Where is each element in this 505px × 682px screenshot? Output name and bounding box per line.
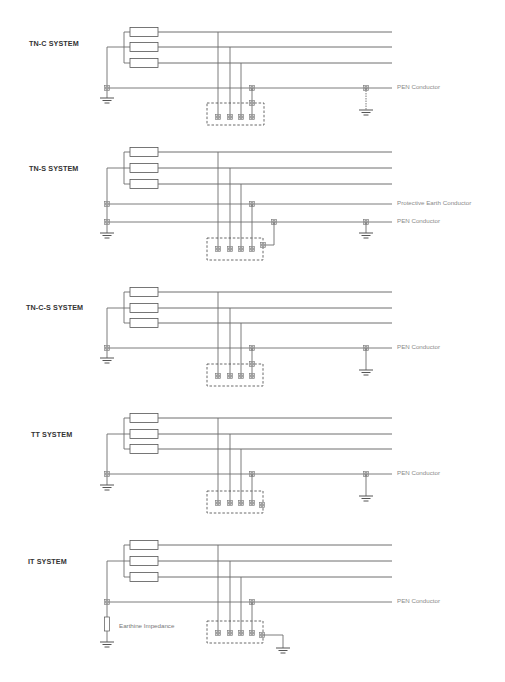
system-title: TN-C SYSTEM: [29, 39, 79, 48]
terminal-icon: [228, 247, 233, 252]
terminal-icon: [239, 631, 244, 636]
winding-coil: [130, 164, 158, 173]
terminal-icon: [250, 631, 255, 636]
terminal-icon: [250, 362, 255, 367]
winding-coil: [130, 43, 158, 52]
terminal-icon: [228, 501, 233, 506]
pen-conductor-label: PEN Conductor: [397, 469, 440, 476]
terminal-icon: [250, 374, 255, 379]
pen-conductor-label: PEN Conductor: [397, 343, 440, 350]
terminal-icon: [228, 631, 233, 636]
pen-conductor-label: PEN Conductor: [397, 83, 440, 90]
system-title: IT SYSTEM: [28, 557, 67, 566]
winding-coil: [130, 59, 158, 68]
system-tnc: [100, 28, 392, 126]
system-tns: [100, 148, 392, 261]
winding-coil: [130, 414, 158, 423]
winding-coil: [130, 541, 158, 550]
terminal-icon: [260, 633, 265, 638]
system-title: TN-S SYSTEM: [29, 164, 78, 173]
terminal-icon: [216, 247, 221, 252]
winding-coil: [130, 319, 158, 328]
terminal-icon: [105, 86, 110, 91]
earthing-impedance-resistor: [105, 617, 110, 631]
terminal-icon: [239, 501, 244, 506]
terminal-icon: [250, 247, 255, 252]
winding-coil: [130, 288, 158, 297]
winding-coil: [130, 180, 158, 189]
terminal-icon: [216, 374, 221, 379]
terminal-icon: [261, 243, 266, 248]
winding-coil: [130, 304, 158, 313]
system-tncs: [100, 288, 392, 387]
pe-conductor-label: Protective Earth Conductor: [397, 199, 471, 206]
terminal-icon: [216, 631, 221, 636]
terminal-icon: [239, 374, 244, 379]
winding-coil: [130, 148, 158, 157]
terminal-icon: [105, 472, 110, 477]
terminal-icon: [250, 501, 255, 506]
system-tt: [100, 414, 392, 514]
terminal-icon: [105, 202, 110, 207]
earthing-systems-diagram: [0, 0, 505, 682]
equipment-enclosure: [207, 103, 264, 125]
terminal-icon: [250, 115, 255, 120]
winding-coil: [130, 430, 158, 439]
terminal-icon: [228, 115, 233, 120]
pen-conductor-label: PEN Conductor: [397, 597, 440, 604]
terminal-icon: [239, 247, 244, 252]
impedance-label: Earthine Impedance: [119, 622, 174, 629]
terminal-icon: [260, 503, 265, 508]
winding-coil: [130, 573, 158, 582]
winding-coil: [130, 28, 158, 37]
winding-coil: [130, 445, 158, 454]
system-title: TT SYSTEM: [31, 430, 72, 439]
terminal-icon: [105, 600, 110, 605]
terminal-icon: [228, 374, 233, 379]
terminal-icon: [239, 115, 244, 120]
terminal-icon: [105, 346, 110, 351]
terminal-icon: [105, 220, 110, 225]
winding-coil: [130, 557, 158, 566]
terminal-icon: [216, 115, 221, 120]
system-title: TN-C-S SYSTEM: [26, 303, 83, 312]
terminal-icon: [250, 101, 255, 106]
terminal-icon: [216, 501, 221, 506]
pen-conductor-label: PEN Conductor: [397, 217, 440, 224]
system-it: [100, 541, 392, 654]
